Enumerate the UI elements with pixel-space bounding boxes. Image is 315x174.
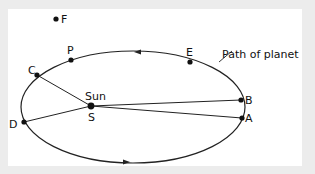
orbit-diagram: F P E C D B A Sun S Path of planet <box>0 0 315 174</box>
label-s: S <box>88 111 95 124</box>
point-p <box>68 57 73 62</box>
orbit-path <box>21 51 245 163</box>
label-sun: Sun <box>85 90 106 103</box>
orbit-direction-arrow-bottom <box>123 160 130 165</box>
point-f <box>53 16 58 21</box>
orbit-direction-arrow-top <box>134 50 141 55</box>
point-d <box>21 119 26 124</box>
radius-line-sb <box>91 100 241 106</box>
label-b: B <box>245 94 253 107</box>
point-b <box>238 97 243 102</box>
radius-line-sa <box>91 106 242 118</box>
point-a <box>239 115 244 120</box>
label-p: P <box>67 44 74 57</box>
sun-point <box>88 103 95 110</box>
label-a: A <box>245 112 253 125</box>
radius-line-sc <box>37 75 91 106</box>
label-d: D <box>9 118 17 131</box>
label-f: F <box>61 13 67 26</box>
point-e <box>187 59 192 64</box>
label-c: C <box>28 64 36 77</box>
radius-line-sd <box>24 106 91 122</box>
label-e: E <box>186 46 193 59</box>
label-path-of-planet: Path of planet <box>222 48 299 61</box>
